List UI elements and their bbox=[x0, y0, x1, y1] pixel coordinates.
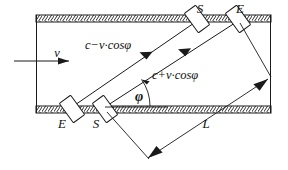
label-angle-phi: φ bbox=[135, 89, 143, 104]
label-path-length-L: L bbox=[201, 116, 209, 131]
label-transducer-bottom-right-S: S bbox=[93, 116, 100, 131]
diagram-canvas: S E E S v c−v·cosφ c+v·cosφ φ L bbox=[0, 0, 288, 170]
label-transducer-top-right-E: E bbox=[235, 1, 244, 16]
label-transducer-bottom-left-E: E bbox=[57, 116, 66, 131]
label-beam-downstream-speed: c+v·cosφ bbox=[152, 68, 198, 82]
label-flow-velocity: v bbox=[54, 46, 60, 60]
ultrasonic-flow-diagram: S E E S v c−v·cosφ c+v·cosφ φ L bbox=[0, 0, 288, 170]
dimension-line-L bbox=[107, 23, 271, 159]
label-beam-upstream-speed: c−v·cosφ bbox=[85, 38, 131, 52]
label-transducer-top-left-S: S bbox=[197, 1, 204, 16]
beam-path-downstream bbox=[105, 21, 238, 107]
flow-velocity-arrow bbox=[14, 57, 69, 64]
